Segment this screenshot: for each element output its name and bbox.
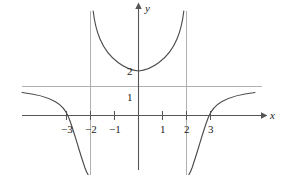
- y-tick-label-2: 2: [127, 66, 133, 77]
- x-tick-label-1: 1: [160, 124, 166, 135]
- x-tick-label-2: 2: [184, 124, 190, 135]
- curve-right-branch: [189, 93, 255, 176]
- curve-left-branch: [22, 93, 88, 176]
- x-tick-label--2: −2: [85, 124, 97, 135]
- function-graph-figure: −3 −2 −1 1 2 3 1 2 y x: [0, 0, 288, 175]
- y-axis-label: y: [145, 3, 150, 14]
- plot-canvas: [0, 0, 288, 175]
- y-tick-label-1: 1: [127, 92, 133, 103]
- x-tick-label-3: 3: [208, 124, 214, 135]
- x-tick-label--1: −1: [109, 124, 121, 135]
- x-tick-label--3: −3: [61, 124, 73, 135]
- x-axis-label: x: [270, 110, 275, 121]
